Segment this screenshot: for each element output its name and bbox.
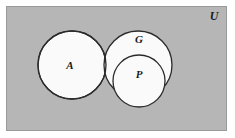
set-a-label: A — [65, 59, 73, 71]
venn-diagram-figure: U A G P — [0, 0, 235, 138]
universal-set-label: U — [210, 9, 220, 23]
set-g-label: G — [135, 33, 143, 45]
set-p-label: P — [136, 68, 143, 80]
set-p-circle — [113, 55, 165, 107]
venn-diagram-canvas: U A G P — [0, 0, 235, 138]
